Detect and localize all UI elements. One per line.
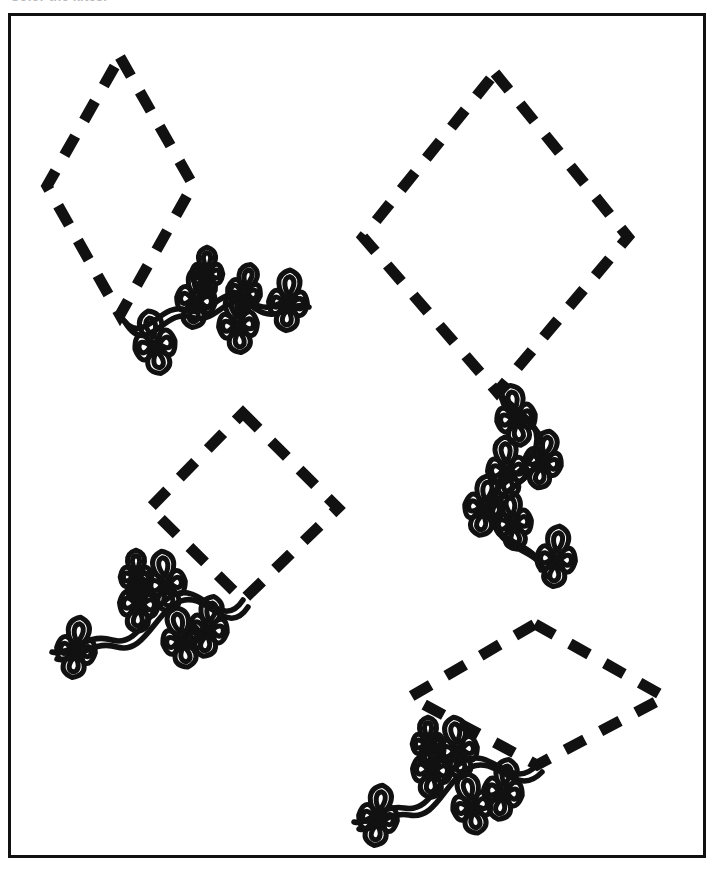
page-border [8, 13, 706, 858]
worksheet-instruction-text: Color the kites. [10, 0, 107, 4]
